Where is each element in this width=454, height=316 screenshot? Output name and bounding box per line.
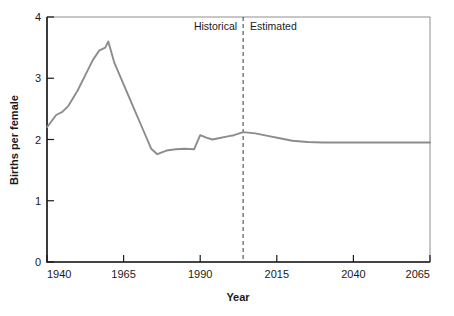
axis-lines <box>47 17 430 262</box>
x-tick-label-2065: 2065 <box>406 268 430 280</box>
fertility-line-series <box>47 42 430 155</box>
y-tick-label-3: 3 <box>35 72 41 84</box>
y-tick-label-2: 2 <box>35 134 41 146</box>
y-tick-label-1: 1 <box>35 195 41 207</box>
y-tick-label-0: 0 <box>35 256 41 268</box>
y-tick-label-4: 4 <box>35 11 41 23</box>
x-axis-title: Year <box>226 291 250 303</box>
plot-frame <box>47 17 430 262</box>
x-tick-label-1990: 1990 <box>188 268 212 280</box>
y-tick-labels: 0 1 2 3 4 <box>35 11 41 268</box>
x-tick-label-2040: 2040 <box>341 268 365 280</box>
y-axis-title: Births per female <box>8 95 20 185</box>
x-tick-marks <box>47 255 430 262</box>
y-tick-marks <box>47 17 54 262</box>
x-tick-label-1965: 1965 <box>111 268 135 280</box>
x-tick-label-2015: 2015 <box>265 268 289 280</box>
chart-svg: 0 1 2 3 4 1940 1965 1990 2015 2040 2065 … <box>0 0 454 316</box>
x-tick-label-1940: 1940 <box>47 268 71 280</box>
historical-label: Historical <box>194 20 237 32</box>
x-tick-labels: 1940 1965 1990 2015 2040 2065 <box>47 268 430 280</box>
estimated-label: Estimated <box>250 20 297 32</box>
fertility-rate-chart: 0 1 2 3 4 1940 1965 1990 2015 2040 2065 … <box>0 0 454 316</box>
